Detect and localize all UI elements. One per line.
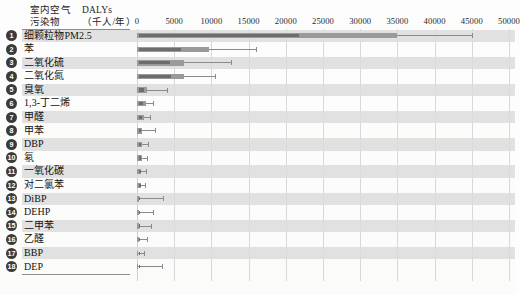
x-tick-label: 5000 [165,16,183,26]
row-rank-badge: 3 [6,57,17,68]
chart-row: 5臭氧 [0,83,515,97]
row-pollutant-label: 臭氧 [24,84,44,97]
chart-row: 11一氧化碳 [0,165,515,179]
x-tick-label: 35000 [386,16,408,26]
error-bar-line [139,226,151,227]
error-bar-line [209,49,256,50]
value-bar-inner [139,224,140,227]
row-stripe [22,165,515,177]
row-pollutant-label: DEHP [24,206,51,219]
value-bar-inner [139,116,142,119]
value-bar-inner [139,265,140,268]
row-rank-badge: 6 [6,98,17,109]
row-pollutant-label: DBP [24,138,44,151]
bottom-rule [22,274,130,275]
error-bar-cap [147,237,148,242]
row-stripe [22,138,515,150]
row-rank-badge: 16 [6,234,17,245]
value-bar-inner [139,252,140,255]
row-rank-badge: 10 [6,152,17,163]
x-axis-ticks: 0500010000150002000025000300003500040000… [0,16,515,29]
error-bar-cap [146,169,147,174]
value-bar-inner [139,238,140,241]
chart-row: 2苯 [0,43,515,57]
row-pollutant-label: 细颗粒物PM2.5 [24,30,92,43]
row-stripe [22,43,515,55]
value-bar-inner [139,61,170,64]
error-bar-cap [167,88,168,93]
chart-row: 18DEP [0,260,515,274]
error-bar-cap [153,101,154,106]
row-rank-badge: 2 [6,44,17,55]
row-rank-badge: 14 [6,207,17,218]
chart-row: 10氡 [0,151,515,165]
row-stripe [22,97,515,109]
row-stripe [22,179,515,191]
chart-row: 4二氧化氮 [0,70,515,84]
chart-row: 15二甲苯 [0,219,515,233]
error-bar-line [146,103,153,104]
error-bar-cap [472,33,473,38]
row-stripe [22,57,515,69]
row-pollutant-label: 苯 [24,43,34,56]
row-stripe [22,247,515,259]
row-rank-badge: 15 [6,220,17,231]
chart-row: 8甲苯 [0,124,515,138]
header-col-dalys-line1: DALYs [82,5,112,15]
row-rank-badge: 11 [6,166,17,177]
error-bar-cap [145,183,146,188]
row-stripe [22,193,515,205]
error-bar-cap [144,251,145,256]
error-bar-cap [151,224,152,229]
value-bar-inner [139,197,140,200]
row-rank-badge: 12 [6,180,17,191]
row-rank-badge: 8 [6,125,17,136]
value-bar-inner [139,102,143,105]
row-rank-badge: 4 [6,71,17,82]
error-bar-cap [153,210,154,215]
row-pollutant-label: 甲醛 [24,111,44,124]
chart-row: 3二氧化硫 [0,56,515,70]
chart-row: 12对二氯苯 [0,179,515,193]
row-pollutant-label: 二氧化硫 [24,57,64,70]
x-tick-label: 20000 [275,16,297,26]
value-bar-inner [139,170,141,173]
value-bar-inner [139,88,144,91]
row-rank-badge: 5 [6,84,17,95]
row-pollutant-label: 二甲苯 [24,220,54,233]
x-tick-label: 15000 [238,16,260,26]
x-tick-label: 10000 [200,16,222,26]
row-pollutant-label: DEP [24,261,43,274]
value-bar-inner [139,156,141,159]
row-rank-badge: 9 [6,139,17,150]
error-bar-cap [215,74,216,79]
error-bar-cap [231,60,232,65]
error-bar-line [184,62,231,63]
row-pollutant-label: 二氧化氮 [24,70,64,83]
error-bar-line [142,130,155,131]
error-bar-line [138,266,162,267]
row-stripe [22,206,515,218]
chart-rows: 1细颗粒物PM2.52苯3二氧化硫4二氧化氮5臭氧61,3-丁二烯7甲醛8甲苯9… [0,29,515,274]
value-bar-inner [139,211,140,214]
chart-row: 9DBP [0,138,515,152]
row-pollutant-label: DiBP [24,193,47,206]
row-pollutant-label: BBP [24,247,43,260]
row-stripe [22,233,515,245]
value-bar [137,264,138,269]
x-tick-label: 40000 [424,16,446,26]
row-rank-badge: 1 [6,30,17,41]
row-stripe [22,84,515,96]
row-pollutant-label: 乙醛 [24,233,44,246]
error-bar-cap [256,47,257,52]
error-bar-cap [147,156,148,161]
row-stripe [22,70,515,82]
error-bar-line [139,198,163,199]
error-bar-cap [155,128,156,133]
row-rank-badge: 17 [6,248,17,259]
header-col-pollutant-line1: 室内空气 [30,5,71,15]
x-tick-label: 25000 [312,16,334,26]
row-pollutant-label: 甲苯 [24,125,44,138]
value-bar-inner [139,48,181,51]
